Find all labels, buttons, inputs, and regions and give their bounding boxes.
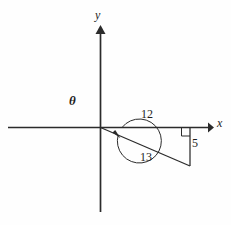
x-axis-arrowhead xyxy=(208,123,214,133)
adjacent-side-label: 12 xyxy=(141,108,153,120)
y-axis-label: y xyxy=(95,9,100,21)
right-angle-marker xyxy=(182,128,191,137)
opposite-side-label: 5 xyxy=(192,137,198,149)
theta-angle-label: θ xyxy=(69,94,76,107)
figure-canvas xyxy=(0,0,231,225)
y-axis-arrowhead xyxy=(96,25,106,34)
x-axis-label: x xyxy=(217,117,222,129)
hypotenuse-label: 13 xyxy=(140,151,152,163)
trigonometry-figure: y x θ 12 13 5 xyxy=(0,0,231,225)
